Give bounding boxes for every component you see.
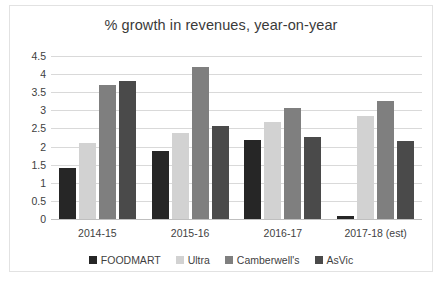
legend-item[interactable]: Ultra (176, 255, 210, 266)
y-axis-tick-label: 2 (40, 141, 46, 152)
bar-group: 2015-16 (144, 56, 237, 219)
bar-ultra-2014-15 (79, 143, 96, 219)
y-axis-tick-label: 4.5 (31, 51, 46, 62)
legend-label: AsVic (327, 255, 354, 266)
legend-swatch-icon (89, 256, 97, 264)
bar-foodmart-2017-18-est (337, 216, 354, 219)
x-axis-tick-label: 2017-18 (est) (329, 227, 422, 239)
bar-ultra-2015-16 (172, 133, 189, 219)
bar-asvic-2014-15 (119, 81, 136, 219)
bar-camberwell-s-2016-17 (284, 108, 301, 219)
gridline (51, 219, 422, 220)
chart-frame: % growth in revenues, year-on-year 00.51… (9, 5, 433, 272)
bar-foodmart-2015-16 (152, 151, 169, 219)
legend-item[interactable]: Camberwell's (225, 255, 300, 266)
chart-title: % growth in revenues, year-on-year (10, 17, 432, 33)
bar-asvic-2015-16 (212, 126, 229, 219)
legend-label: Ultra (188, 255, 210, 266)
bar-group: 2014-15 (51, 56, 144, 219)
bar-group: 2016-17 (237, 56, 330, 219)
bar-asvic-2016-17 (304, 137, 321, 219)
y-axis-tick-label: 0 (40, 214, 46, 225)
plot-area: 00.511.522.533.544.52014-152015-162016-1… (51, 56, 422, 219)
x-axis-tick-label: 2014-15 (51, 227, 144, 239)
bar-camberwell-s-2015-16 (192, 67, 209, 219)
bar-group: 2017-18 (est) (329, 56, 422, 219)
y-axis-tick-label: 1.5 (31, 159, 46, 170)
bar-foodmart-2014-15 (59, 168, 76, 219)
legend-item[interactable]: AsVic (315, 255, 354, 266)
legend-item[interactable]: FOODMART (89, 255, 161, 266)
y-axis-tick-label: 3 (40, 105, 46, 116)
x-axis-tick-label: 2015-16 (144, 227, 237, 239)
bar-ultra-2017-18-est (357, 116, 374, 219)
x-axis-tick-label: 2016-17 (237, 227, 330, 239)
bar-camberwell-s-2017-18-est (377, 101, 394, 219)
legend-swatch-icon (315, 256, 323, 264)
y-axis-tick-label: 0.5 (31, 196, 46, 207)
bar-ultra-2016-17 (264, 122, 281, 219)
legend-swatch-icon (225, 256, 233, 264)
y-axis-tick-label: 4 (40, 69, 46, 80)
bar-camberwell-s-2014-15 (99, 85, 116, 219)
y-axis-tick-label: 1 (40, 178, 46, 189)
chart-legend: FOODMARTUltraCamberwell'sAsVic (10, 255, 432, 266)
y-axis-tick-label: 2.5 (31, 123, 46, 134)
legend-swatch-icon (176, 256, 184, 264)
bar-asvic-2017-18-est (397, 141, 414, 219)
legend-label: Camberwell's (237, 255, 300, 266)
y-axis-tick-label: 3.5 (31, 87, 46, 98)
plot-inner: 00.511.522.533.544.52014-152015-162016-1… (51, 56, 422, 219)
bar-foodmart-2016-17 (244, 140, 261, 219)
legend-label: FOODMART (101, 255, 161, 266)
